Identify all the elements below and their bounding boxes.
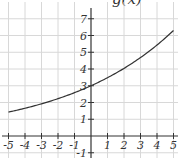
- x-tick-label: 2: [120, 139, 128, 152]
- y-tick-label: 7: [80, 13, 87, 26]
- axes: [2, 8, 178, 158]
- x-tick-label: -3: [36, 139, 47, 152]
- y-tick-label: 2: [79, 97, 87, 110]
- y-tick-label: 5: [80, 46, 87, 59]
- x-tick-label: 4: [153, 139, 161, 152]
- x-tick-label: -2: [53, 139, 64, 152]
- chart-title: g(x): [112, 0, 142, 8]
- y-tick-label: -1: [76, 147, 87, 158]
- grid-lines: [0, 2, 178, 158]
- y-tick-label: 3: [80, 80, 87, 93]
- x-tick-label: 1: [104, 139, 111, 152]
- x-tick-label: -5: [3, 139, 14, 152]
- function-graph: g(x) -5-4-3-2-112345 -11234567: [0, 0, 180, 158]
- x-tick-label: 3: [137, 139, 144, 152]
- y-tick-label: 6: [80, 30, 87, 43]
- x-tick-label: -4: [20, 139, 31, 152]
- y-tick-label: 1: [80, 113, 87, 126]
- x-tick-label: 5: [170, 139, 177, 152]
- y-tick-label: 4: [79, 63, 87, 76]
